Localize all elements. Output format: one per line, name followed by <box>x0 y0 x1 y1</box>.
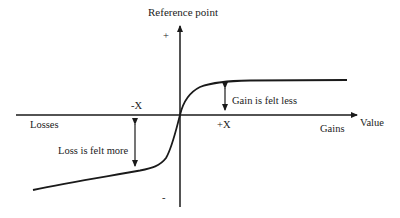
pos-x-label: +X <box>217 120 231 131</box>
losses-label: Losses <box>30 120 59 131</box>
value-function-diagram <box>0 0 400 218</box>
gain-felt-less-label: Gain is felt less <box>232 96 297 107</box>
gains-label: Gains <box>320 124 345 135</box>
neg-x-label: -X <box>131 101 142 112</box>
loss-felt-more-label: Loss is felt more <box>58 146 128 157</box>
y-minus-label: - <box>162 193 166 204</box>
reference-point-label: Reference point <box>148 7 218 18</box>
y-plus-label: + <box>163 31 169 42</box>
x-axis-value-label: Value <box>360 118 384 129</box>
